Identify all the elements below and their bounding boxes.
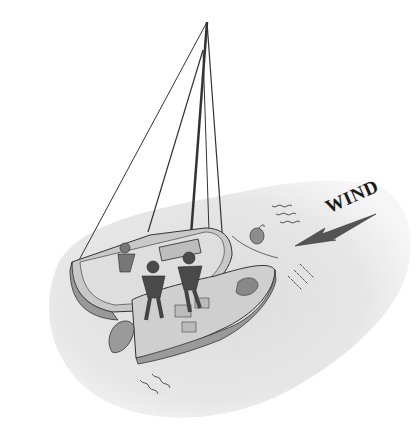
sailboat-illustration: WIND xyxy=(0,0,419,434)
illustration-svg xyxy=(0,0,419,434)
